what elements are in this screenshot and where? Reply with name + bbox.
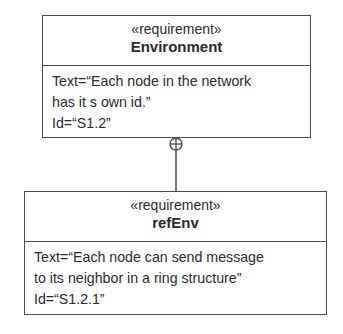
requirement-text-line: has it s own id.” [52,92,310,113]
requirement-refenv[interactable]: «requirement» refEnv Text=“Each node can… [24,191,327,315]
requirement-text-line: Text=“Each node in the network [52,71,310,92]
requirement-properties: Text=“Each node in the network has it s … [43,66,310,134]
requirement-name: refEnv [25,214,326,232]
requirement-environment[interactable]: «requirement» Environment Text=“Each nod… [42,15,311,138]
requirement-text-line: Text=“Each node can send message [34,247,326,268]
requirement-id: Id=“S1.2” [52,113,310,134]
requirement-id: Id=“S1.2.1” [34,289,326,310]
requirement-text-line: to its neighbor in a ring structure” [34,268,326,289]
containment-crosshair-icon [170,138,182,150]
requirement-header: «requirement» refEnv [25,192,326,242]
stereotype-label: «requirement» [43,21,310,38]
requirement-properties: Text=“Each node can send message to its … [25,242,326,310]
stereotype-label: «requirement» [25,197,326,214]
requirement-name: Environment [43,38,310,56]
requirement-header: «requirement» Environment [43,16,310,66]
